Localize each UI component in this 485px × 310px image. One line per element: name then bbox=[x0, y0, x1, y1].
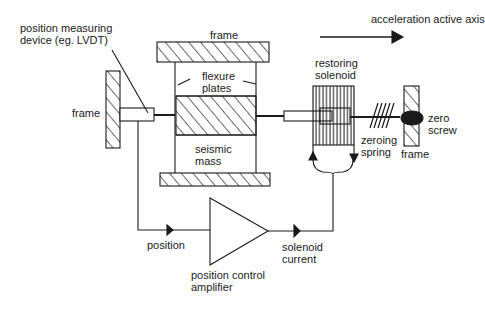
frame-left bbox=[106, 71, 120, 148]
label-position: position bbox=[147, 239, 185, 251]
label-screw-1: zero bbox=[428, 112, 449, 124]
label-frame-top: frame bbox=[210, 29, 238, 41]
zero-screw bbox=[401, 111, 423, 125]
label-amp-1: position control bbox=[191, 269, 265, 281]
label-frame-right: frame bbox=[401, 148, 429, 160]
axis-arrow bbox=[320, 31, 403, 43]
label-axis: acceleration active axis bbox=[371, 13, 485, 25]
label-frame-left: frame bbox=[72, 107, 100, 119]
label-solenoid-2: solenoid bbox=[315, 69, 356, 81]
restoring-solenoid bbox=[313, 86, 354, 145]
amplifier bbox=[210, 198, 268, 265]
zeroing-spring bbox=[370, 103, 394, 128]
frame-bottom bbox=[160, 173, 270, 186]
label-screw-2: screw bbox=[428, 124, 457, 136]
label-current-1: solenoid bbox=[282, 241, 323, 253]
label-lvdt-2: device (eg. LVDT) bbox=[20, 34, 108, 46]
label-flexure-1: flexure bbox=[202, 70, 235, 82]
label-mass-1: seismic bbox=[195, 143, 232, 155]
label-spring-1: zeroing bbox=[361, 134, 397, 146]
label-lvdt-1: position measuring bbox=[20, 22, 112, 34]
label-current-2: current bbox=[282, 253, 316, 265]
label-amp-2: amplifier bbox=[191, 281, 233, 293]
label-flexure-2: plates bbox=[202, 82, 231, 94]
label-spring-2: spring bbox=[361, 146, 391, 158]
seismic-mass bbox=[176, 96, 256, 135]
lvdt bbox=[120, 108, 154, 121]
label-solenoid-1: restoring bbox=[315, 57, 358, 69]
label-mass-2: mass bbox=[195, 155, 221, 167]
frame-top bbox=[157, 42, 269, 62]
